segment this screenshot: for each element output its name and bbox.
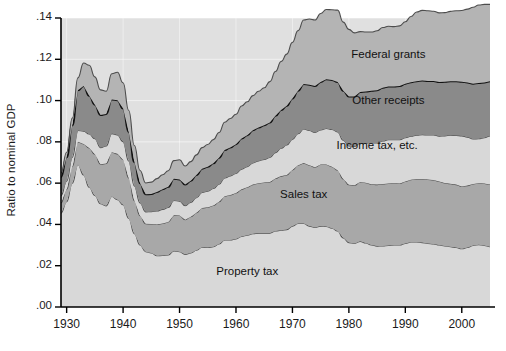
x-axis-tick-label: 1960	[212, 317, 260, 331]
y-axis-tick-label: .00	[24, 299, 52, 311]
x-axis-tick-label: 1940	[99, 317, 147, 331]
y-axis-tick-label: .14	[24, 10, 52, 22]
y-axis-tick-label: .10	[24, 93, 52, 105]
y-axis-tick-label: .12	[24, 51, 52, 63]
x-axis-tick-label: 1990	[381, 317, 429, 331]
y-axis-tick-label: .04	[24, 216, 52, 228]
x-axis-tick-label: 1930	[43, 317, 91, 331]
x-axis-tick-label: 1980	[325, 317, 373, 331]
y-axis-tick-label: .06	[24, 175, 52, 187]
x-axis-tick-label: 1950	[156, 317, 204, 331]
y-axis-tick-label: .08	[24, 134, 52, 146]
stacked-area-plot	[0, 0, 506, 351]
y-axis-tick-label: .02	[24, 258, 52, 270]
x-axis-tick-label: 2000	[438, 317, 486, 331]
chart-figure: Ratio to nominal GDP .00.02.04.06.08.10.…	[0, 0, 506, 351]
x-axis-tick-label: 1970	[268, 317, 316, 331]
